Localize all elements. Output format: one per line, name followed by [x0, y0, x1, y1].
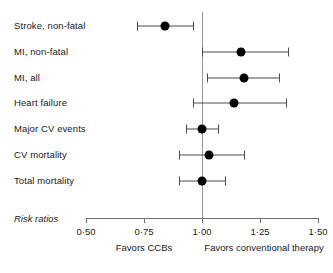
point-estimate-marker	[198, 125, 207, 134]
row-label: MI, non-fatal	[14, 47, 68, 57]
x-axis-title: Risk ratios	[14, 213, 58, 224]
ci-cap-lower	[186, 125, 187, 134]
confidence-interval-line	[193, 103, 286, 104]
axis-tick-label: 0·75	[134, 226, 153, 237]
ci-cap-lower	[207, 73, 208, 82]
row-label: Major CV events	[14, 124, 86, 134]
axis-tick	[318, 218, 319, 223]
axis-tick-label: 1·25	[250, 226, 269, 237]
axis-tick	[202, 218, 203, 223]
row-label: Stroke, non-fatal	[14, 21, 85, 31]
ci-cap-lower	[179, 176, 180, 185]
ci-cap-lower	[137, 22, 138, 31]
ci-cap-lower	[193, 99, 194, 108]
row-label: CV mortality	[14, 150, 67, 160]
point-estimate-marker	[230, 99, 239, 108]
forest-plot: Stroke, non-fatalMI, non-fatalMI, allHea…	[0, 0, 333, 273]
ci-cap-upper	[193, 22, 194, 31]
row-label: Heart failure	[14, 98, 67, 108]
ci-cap-upper	[218, 125, 219, 134]
favors-conventional-caption: Favors conventional therapy	[204, 242, 324, 255]
point-estimate-marker	[239, 73, 248, 82]
reference-line-null	[202, 12, 203, 218]
point-estimate-marker	[237, 47, 246, 56]
point-estimate-marker	[204, 151, 213, 160]
ci-cap-lower	[179, 151, 180, 160]
axis-tick	[86, 218, 87, 223]
row-label: MI, all	[14, 73, 40, 83]
axis-tick	[260, 218, 261, 223]
axis-tick-label: 0·50	[76, 226, 95, 237]
ci-cap-lower	[202, 47, 203, 56]
point-estimate-marker	[160, 22, 169, 31]
ci-cap-upper	[225, 176, 226, 185]
ci-cap-upper	[286, 99, 287, 108]
favors-ccbs-caption: Favors CCBs	[116, 242, 172, 255]
axis-tick	[144, 218, 145, 223]
ci-cap-upper	[288, 47, 289, 56]
axis-tick-label: 1·00	[192, 226, 211, 237]
point-estimate-marker	[198, 176, 207, 185]
row-label: Total mortality	[14, 176, 74, 186]
axis-tick-label: 1·50	[308, 226, 327, 237]
ci-cap-upper	[279, 73, 280, 82]
ci-cap-upper	[244, 151, 245, 160]
